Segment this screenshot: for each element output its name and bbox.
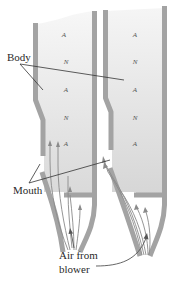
arrow-head-icon <box>78 204 82 210</box>
right-marker-2: A <box>132 86 138 94</box>
mouth-label: Mouth <box>13 184 43 196</box>
air-from-blower-label-line2: blower <box>59 263 90 275</box>
body-label: Body <box>7 51 31 63</box>
left-pipe <box>36 11 95 252</box>
right-marker-0: A <box>132 31 138 39</box>
air-from-blower-label-line1: Air from <box>59 249 98 261</box>
organ-pipe-diagram: A N A N A A N A N A Body <box>0 0 173 281</box>
left-marker-3: N <box>63 114 69 122</box>
left-marker-2: A <box>63 86 69 94</box>
left-marker-4: A <box>63 140 69 148</box>
arrow-head-icon <box>134 204 139 210</box>
arrow-head-icon <box>69 228 74 234</box>
right-marker-1: N <box>132 58 138 66</box>
right-pipe <box>106 6 165 256</box>
flow-line <box>70 195 74 250</box>
flow-line <box>76 210 80 250</box>
right-marker-3: N <box>132 114 138 122</box>
left-marker-1: N <box>63 58 69 66</box>
right-marker-4: A <box>132 140 138 148</box>
left-marker-0: A <box>61 31 67 39</box>
arrow-head-icon <box>143 207 148 213</box>
